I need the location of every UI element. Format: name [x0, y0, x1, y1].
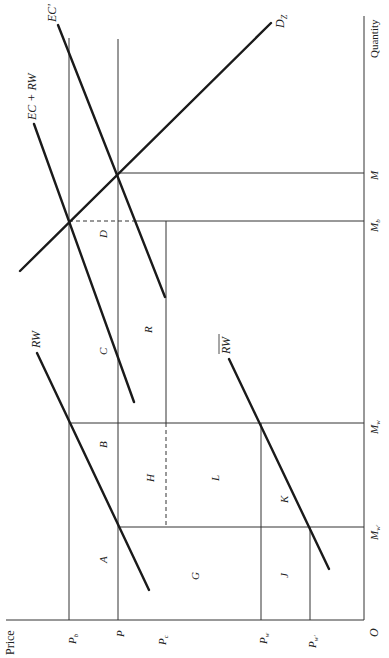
svg-text:M: M — [368, 170, 380, 181]
region-d: D — [97, 230, 109, 239]
svg-text:B: B — [97, 441, 109, 448]
region-h: H — [144, 473, 156, 483]
quantity-axis-title: Quantity — [368, 19, 380, 58]
pb-tick-label: Pb — [66, 633, 80, 645]
region-b: B — [97, 441, 109, 448]
pw2-tick-label: Pw' — [306, 635, 320, 649]
region-k: K — [278, 495, 290, 504]
svg-text:L: L — [209, 475, 221, 482]
region-l: L — [209, 475, 221, 482]
mb-tick-label: Mb — [368, 219, 382, 233]
ec-prime-rw-curve — [58, 25, 165, 297]
region-a: A — [97, 556, 109, 564]
ec-prime-rw-label: EC' + RW — [45, 0, 59, 23]
svg-text:Mw': Mw' — [368, 524, 382, 541]
region-g: G — [189, 572, 201, 580]
svg-text:A: A — [97, 556, 109, 564]
p-tick-label: P — [114, 630, 126, 638]
svg-text:RW: RW — [219, 336, 233, 355]
svg-text:G: G — [189, 572, 201, 580]
svg-text:O: O — [367, 628, 381, 637]
price-axis-title: Price — [3, 630, 17, 655]
region-c: C — [97, 347, 109, 355]
svg-text:R: R — [142, 326, 154, 334]
svg-text:EC + RW: EC + RW — [25, 72, 39, 121]
svg-text:H: H — [144, 473, 156, 483]
region-r: R — [142, 326, 154, 334]
svg-text:Pb: Pb — [66, 633, 80, 645]
dz-label: DZ — [273, 14, 289, 29]
svg-text:Pw: Pw — [257, 632, 271, 645]
rw-bar-curve — [229, 359, 329, 569]
svg-text:D: D — [97, 230, 109, 239]
svg-text:P: P — [114, 630, 126, 638]
svg-text:K: K — [278, 495, 290, 504]
rw-curve — [37, 353, 149, 590]
svg-text:J: J — [278, 572, 290, 578]
mw-tick-label: Mw — [368, 420, 382, 435]
m-tick-label: M — [368, 170, 380, 181]
dz-curve — [20, 23, 271, 271]
svg-text:Pw': Pw' — [306, 635, 320, 649]
svg-text:EC' + RW: EC' + RW — [45, 0, 59, 23]
trade-diagram: EC' + RW EC + RW DZ RW RW A B C D G H J … — [0, 0, 389, 658]
svg-text:Pc: Pc — [156, 634, 170, 646]
svg-text:Mb: Mb — [368, 219, 382, 233]
origin-label: O — [367, 628, 381, 637]
rw-bar-label: RW — [219, 334, 233, 355]
svg-text:DZ: DZ — [273, 14, 289, 29]
pw-tick-label: Pw — [257, 632, 271, 645]
svg-text:Price: Price — [3, 630, 17, 655]
svg-text:Quantity: Quantity — [368, 19, 380, 58]
pc-tick-label: Pc — [156, 634, 170, 646]
svg-text:RW: RW — [29, 330, 43, 349]
ec-rw-curve — [34, 124, 134, 402]
region-j: J — [278, 572, 290, 578]
svg-text:C: C — [97, 347, 109, 355]
mw2-tick-label: Mw' — [368, 524, 382, 541]
ec-rw-label: EC + RW — [25, 72, 39, 121]
rw-label: RW — [29, 330, 43, 349]
svg-text:Mw: Mw — [368, 420, 382, 435]
